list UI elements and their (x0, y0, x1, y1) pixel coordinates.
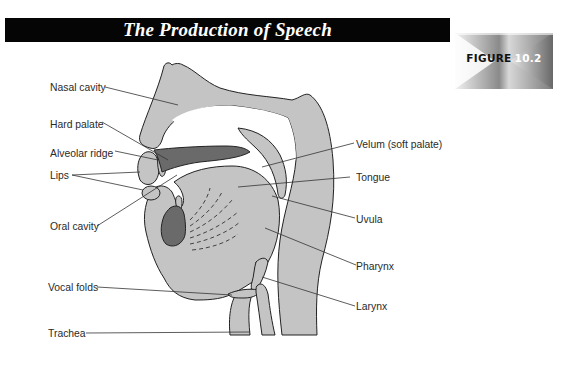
larynx-wall (256, 284, 275, 335)
label-trachea: Trachea (48, 326, 86, 340)
vocal-tract-diagram (0, 0, 564, 366)
lower-lip (142, 186, 160, 200)
label-uvula: Uvula (356, 212, 382, 226)
label-lips: Lips (50, 168, 69, 182)
label-hard-palate: Hard palate (50, 117, 104, 131)
label-alveolar-ridge: Alveolar ridge (50, 146, 113, 160)
label-pharynx: Pharynx (356, 259, 394, 273)
label-velum: Velum (soft palate) (356, 137, 442, 151)
label-oral-cavity: Oral cavity (50, 219, 99, 233)
label-vocal-folds: Vocal folds (48, 280, 98, 294)
label-larynx: Larynx (356, 299, 387, 313)
label-tongue: Tongue (356, 170, 390, 184)
label-nasal-cavity: Nasal cavity (50, 80, 106, 94)
